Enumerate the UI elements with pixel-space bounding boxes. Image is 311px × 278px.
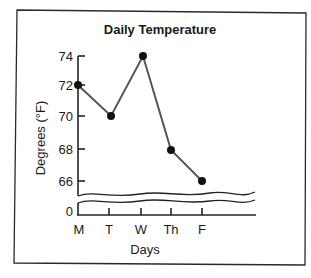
axis-break — [77, 192, 256, 203]
x-tick-label-Th: Th — [163, 222, 178, 237]
temperature-line — [78, 56, 202, 181]
x-tick-label-W: W — [135, 222, 148, 237]
data-point-F — [198, 177, 206, 185]
chart-title: Daily Temperature — [104, 22, 216, 37]
x-tick-label-M: M — [74, 222, 85, 237]
x-tick-label-F: F — [198, 222, 206, 237]
y-axis-label: Degrees (°F) — [33, 101, 48, 176]
y-tick-label-74: 74 — [59, 49, 73, 64]
line-chart: Daily Temperature Degrees (°F) 74 72 70 … — [0, 0, 311, 278]
x-tick-label-T: T — [105, 222, 113, 237]
data-point-T — [107, 112, 115, 120]
data-point-Th — [167, 146, 175, 154]
y-tick-label-66: 66 — [59, 174, 73, 189]
data-point-M — [74, 81, 82, 89]
y-tick-label-68: 68 — [59, 142, 73, 157]
y-tick-label-70: 70 — [59, 109, 73, 124]
data-point-W — [139, 52, 147, 60]
y-tick-label-72: 72 — [59, 78, 73, 93]
y-tick-label-0: 0 — [66, 204, 73, 219]
x-axis-label: Days — [130, 242, 160, 257]
